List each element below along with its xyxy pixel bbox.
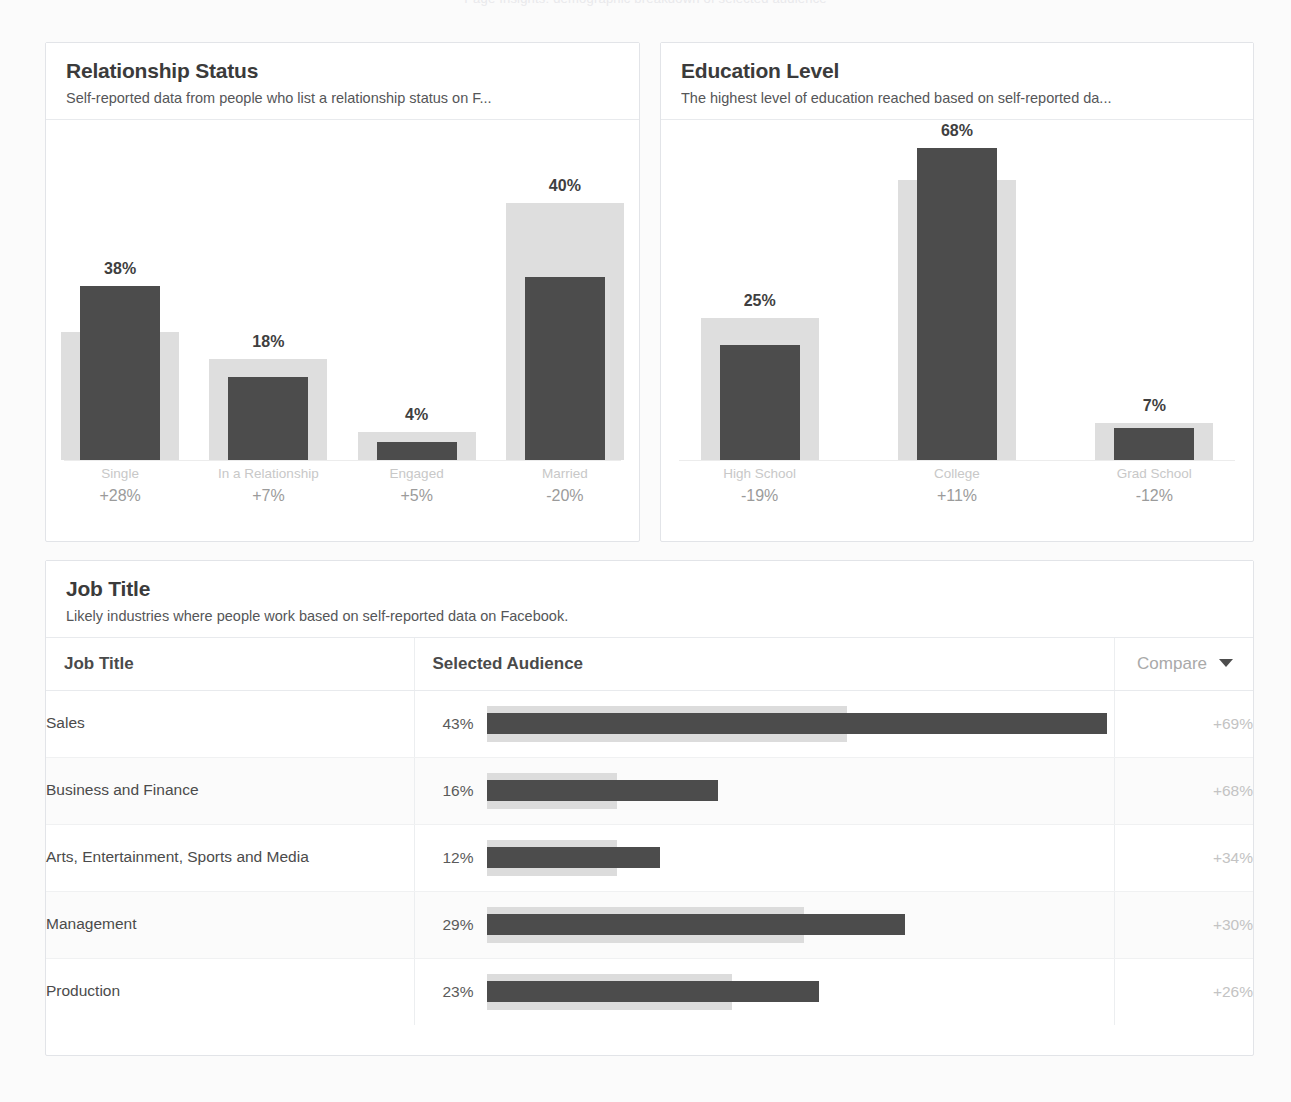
- audience-percent-label: 29%: [415, 916, 487, 934]
- axis-delta-label: +28%: [46, 484, 194, 508]
- cell-compare: +30%: [1114, 891, 1253, 958]
- card-job-title: Job Title Likely industries where people…: [45, 560, 1254, 1056]
- bar-stack: 40%: [506, 130, 624, 460]
- selected-audience-bar: [80, 286, 160, 460]
- axis-tick: Grad School-12%: [1056, 460, 1253, 522]
- axis-delta-label: -12%: [1056, 484, 1253, 508]
- bar-stack: 25%: [701, 130, 819, 460]
- chart-plot-area: 38%18%4%40%: [46, 130, 639, 460]
- card-header: Education Level The highest level of edu…: [661, 43, 1253, 120]
- chart-plot-area: 25%68%7%: [661, 130, 1253, 460]
- audience-percent-label: 23%: [415, 983, 487, 1001]
- bar-track: [487, 905, 1114, 945]
- bar-track: [487, 838, 1114, 878]
- card-title: Education Level: [681, 59, 1233, 84]
- bar-value-label: 38%: [61, 260, 179, 278]
- bar-track: [487, 771, 1114, 811]
- cell-job-title: Sales: [46, 690, 414, 757]
- bar-stack: 7%: [1095, 130, 1213, 460]
- cell-compare: +68%: [1114, 757, 1253, 824]
- selected-audience-bar: [917, 148, 997, 460]
- axis-delta-label: +5%: [343, 484, 491, 508]
- audience-percent-label: 12%: [415, 849, 487, 867]
- axis-category-label: College: [858, 464, 1055, 484]
- selected-audience-bar: [487, 914, 905, 935]
- axis-tick: High School-19%: [661, 460, 858, 522]
- axis-delta-label: +7%: [194, 484, 342, 508]
- chart-axis-labels: Single+28%In a Relationship+7%Engaged+5%…: [46, 460, 639, 522]
- chart-axis-labels: High School-19%College+11%Grad School-12…: [661, 460, 1253, 522]
- cell-compare: +69%: [1114, 690, 1253, 757]
- selected-audience-bar: [228, 377, 308, 460]
- cell-compare: +26%: [1114, 958, 1253, 1025]
- selected-audience-bar: [487, 981, 819, 1002]
- bar-value-label: 7%: [1095, 397, 1213, 415]
- education-bar-chart: 25%68%7% High School-19%College+11%Grad …: [661, 120, 1253, 530]
- audience-bar-wrapper: 12%: [415, 825, 1114, 891]
- table-row[interactable]: Production23%+26%: [46, 958, 1253, 1025]
- table-row[interactable]: Management29%+30%: [46, 891, 1253, 958]
- audience-bar-wrapper: 16%: [415, 758, 1114, 824]
- bar-value-label: 4%: [358, 406, 476, 424]
- bar-group[interactable]: 25%: [661, 130, 858, 460]
- card-header: Relationship Status Self-reported data f…: [46, 43, 639, 120]
- column-header-compare[interactable]: Compare: [1114, 638, 1253, 691]
- column-header-job-title[interactable]: Job Title: [46, 638, 414, 691]
- bar-track: [487, 704, 1114, 744]
- card-subtitle: The highest level of education reached b…: [681, 89, 1233, 107]
- compare-label: Compare: [1137, 654, 1207, 673]
- bar-stack: 68%: [898, 130, 1016, 460]
- cell-selected-audience: 23%: [414, 958, 1114, 1025]
- axis-tick: In a Relationship+7%: [194, 460, 342, 522]
- audience-bar-wrapper: 43%: [415, 691, 1114, 757]
- cell-selected-audience: 16%: [414, 757, 1114, 824]
- axis-category-label: Married: [491, 464, 639, 484]
- bar-value-label: 68%: [898, 122, 1016, 140]
- table-row[interactable]: Arts, Entertainment, Sports and Media12%…: [46, 824, 1253, 891]
- cell-selected-audience: 12%: [414, 824, 1114, 891]
- selected-audience-bar: [487, 847, 660, 868]
- selected-audience-bar: [487, 780, 718, 801]
- axis-category-label: Grad School: [1056, 464, 1253, 484]
- bar-value-label: 18%: [209, 333, 327, 351]
- insights-page: Page Insights: demographic breakdown of …: [0, 0, 1291, 1102]
- card-relationship-status: Relationship Status Self-reported data f…: [45, 42, 640, 542]
- bar-stack: 4%: [358, 130, 476, 460]
- card-title: Relationship Status: [66, 59, 619, 84]
- bar-group[interactable]: 18%: [194, 130, 342, 460]
- table-header-row: Job Title Selected Audience Compare: [46, 638, 1253, 691]
- card-subtitle: Self-reported data from people who list …: [66, 89, 619, 107]
- cell-job-title: Arts, Entertainment, Sports and Media: [46, 824, 414, 891]
- bar-group[interactable]: 38%: [46, 130, 194, 460]
- bar-group[interactable]: 40%: [491, 130, 639, 460]
- bar-value-label: 25%: [701, 292, 819, 310]
- bar-stack: 18%: [209, 130, 327, 460]
- bar-group[interactable]: 7%: [1056, 130, 1253, 460]
- axis-tick: Engaged+5%: [343, 460, 491, 522]
- job-title-table: Job Title Selected Audience Compare Sale…: [46, 638, 1253, 1025]
- table-body: Sales43%+69%Business and Finance16%+68%A…: [46, 690, 1253, 1025]
- bar-group[interactable]: 68%: [858, 130, 1055, 460]
- column-header-selected-audience[interactable]: Selected Audience: [414, 638, 1114, 691]
- axis-category-label: High School: [661, 464, 858, 484]
- axis-category-label: Engaged: [343, 464, 491, 484]
- axis-delta-label: +11%: [858, 484, 1055, 508]
- selected-audience-bar: [720, 345, 800, 460]
- selected-audience-bar: [377, 442, 457, 460]
- audience-percent-label: 16%: [415, 782, 487, 800]
- table-row[interactable]: Sales43%+69%: [46, 690, 1253, 757]
- card-subtitle: Likely industries where people work base…: [66, 607, 1233, 625]
- axis-delta-label: -19%: [661, 484, 858, 508]
- cell-job-title: Production: [46, 958, 414, 1025]
- card-title: Job Title: [66, 577, 1233, 602]
- audience-bar-wrapper: 29%: [415, 892, 1114, 958]
- axis-category-label: In a Relationship: [194, 464, 342, 484]
- table-row[interactable]: Business and Finance16%+68%: [46, 757, 1253, 824]
- table-head: Job Title Selected Audience Compare: [46, 638, 1253, 691]
- page-ghost-header: Page Insights: demographic breakdown of …: [0, 0, 1291, 6]
- card-education-level: Education Level The highest level of edu…: [660, 42, 1254, 542]
- audience-bar-wrapper: 23%: [415, 959, 1114, 1025]
- bar-group[interactable]: 4%: [343, 130, 491, 460]
- cell-selected-audience: 43%: [414, 690, 1114, 757]
- caret-down-icon: [1219, 659, 1233, 667]
